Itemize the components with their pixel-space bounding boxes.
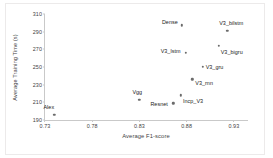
x-axis-tick-label: 0.88 xyxy=(181,123,192,129)
x-axis-tick-mark xyxy=(186,120,187,122)
data-point-label: Resnet xyxy=(150,101,167,107)
data-point-marker[interactable] xyxy=(226,30,228,32)
data-point-marker[interactable] xyxy=(180,94,182,96)
x-axis-tick-label: 0.93 xyxy=(228,123,239,129)
y-axis-tick-label: 250 xyxy=(33,64,42,70)
y-axis-tick-label: 310 xyxy=(33,11,42,17)
x-axis-title: Average F1-score xyxy=(44,133,248,139)
y-axis-tick-label: 290 xyxy=(33,29,42,35)
data-point-marker[interactable] xyxy=(53,113,55,115)
x-axis-tick-mark xyxy=(139,120,140,122)
data-point-label: Alex xyxy=(43,104,54,110)
x-axis-tick-label: 0.78 xyxy=(87,123,98,129)
data-point-label: Vgg xyxy=(132,89,142,95)
y-axis-tick-mark xyxy=(43,84,45,85)
data-point-marker[interactable] xyxy=(184,52,186,54)
x-axis-tick-label: 0.83 xyxy=(134,123,145,129)
data-point-marker[interactable] xyxy=(201,66,203,68)
y-axis-tick-mark xyxy=(43,14,45,15)
x-axis-tick-label: 0.73 xyxy=(40,123,51,129)
data-point-label: V3_gru xyxy=(206,64,224,70)
data-point-label: V3_rnn xyxy=(195,80,213,86)
data-point-marker[interactable] xyxy=(172,102,174,104)
y-axis-tick-label: 210 xyxy=(33,99,42,105)
y-axis-tick-label: 230 xyxy=(33,82,42,88)
x-axis-tick-mark xyxy=(233,120,234,122)
plot-area: 3102902702502302101900.730.780.830.880.9… xyxy=(44,14,248,121)
data-point-label: V3_bilstm xyxy=(219,20,243,26)
data-point-marker[interactable] xyxy=(191,78,193,80)
y-axis-tick-mark xyxy=(43,67,45,68)
data-point-marker[interactable] xyxy=(138,98,140,100)
x-axis-tick-mark xyxy=(45,120,46,122)
y-axis-title: Average Training Time (s) xyxy=(9,14,20,121)
data-point-label: V3_lstm xyxy=(161,48,181,54)
y-axis-tick-mark xyxy=(43,102,45,103)
scatter-chart-figure: Average Training Time (s) 31029027025023… xyxy=(0,0,273,158)
data-point-marker[interactable] xyxy=(181,24,183,26)
y-axis-tick-label: 270 xyxy=(33,46,42,52)
y-axis-tick-mark xyxy=(43,31,45,32)
x-axis-tick-mark xyxy=(92,120,93,122)
y-axis-tick-mark xyxy=(43,49,45,50)
data-point-label: Incp_V3 xyxy=(183,98,203,104)
data-point-marker[interactable] xyxy=(218,45,220,47)
data-point-label: Dense xyxy=(162,19,178,25)
data-point-label: V3_bigru xyxy=(221,49,243,55)
